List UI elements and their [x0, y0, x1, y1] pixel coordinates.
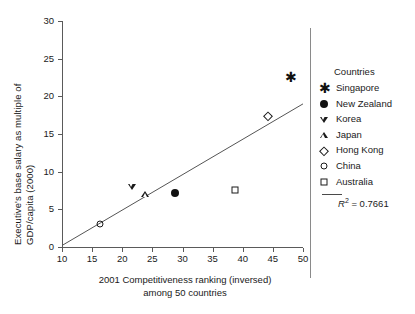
y-tick-label: 30	[32, 15, 54, 26]
r-squared-value: = 0.7661	[351, 198, 388, 209]
x-tick-mark	[62, 248, 63, 252]
x-tick-label: 10	[50, 253, 74, 264]
x-tick-mark	[273, 248, 274, 252]
legend-item-label: Singapore	[336, 82, 379, 93]
legend-trendline-swatch	[322, 194, 342, 195]
legend-item-label: Australia	[336, 176, 373, 187]
circle-open-marker-icon	[321, 163, 328, 170]
r-squared-exponent: 2	[345, 197, 349, 204]
legend-item-label: New Zealand	[336, 98, 392, 109]
plot-area: 051015202530 101520253035404550 ✱	[62, 21, 303, 248]
r-squared-symbol: R	[338, 198, 345, 209]
y-axis-title-line1: Executive's base salary as multiple of	[12, 84, 24, 245]
legend-item-label: China	[336, 160, 361, 171]
x-tick-label: 35	[201, 253, 225, 264]
y-tick-label: 25	[32, 53, 54, 64]
legend-item-label: Japan	[336, 129, 362, 140]
legend-item-australia[interactable]: Australia	[318, 175, 414, 191]
asterisk-marker-icon: ✱	[319, 84, 329, 94]
x-tick-mark	[243, 248, 244, 252]
circle-filled-marker-icon	[171, 189, 179, 197]
scatter-chart-figure: Executive's base salary as multiple of G…	[0, 0, 415, 314]
asterisk-marker-icon: ✱	[285, 73, 295, 83]
legend-items: ✱SingaporeNew ZealandKoreaJapanHong Kong…	[318, 81, 414, 190]
x-tick-mark	[303, 248, 304, 252]
square-open-marker-icon	[321, 179, 328, 186]
x-tick-mark	[92, 248, 93, 252]
square-open-marker-icon	[231, 186, 238, 193]
legend-item-china[interactable]: China	[318, 159, 414, 175]
legend-title: Countries	[334, 66, 414, 77]
legend-item-new-zealand[interactable]: New Zealand	[318, 97, 414, 113]
triangle-up-marker-icon	[320, 132, 328, 138]
y-tick-label: 0	[32, 241, 54, 252]
x-tick-mark	[183, 248, 184, 252]
x-tick-label: 40	[231, 253, 255, 264]
x-axis-title-line1: 2001 Competitiveness ranking (inversed)	[40, 274, 330, 287]
x-tick-label: 30	[171, 253, 195, 264]
x-tick-mark	[152, 248, 153, 252]
legend-separator-line	[310, 28, 311, 278]
x-tick-label: 50	[291, 253, 315, 264]
legend: Countries ✱SingaporeNew ZealandKoreaJapa…	[318, 66, 414, 209]
triangle-up-marker-icon	[141, 191, 149, 197]
x-tick-label: 20	[110, 253, 134, 264]
y-tick-label: 5	[32, 203, 54, 214]
diamond-open-marker-icon	[319, 146, 328, 155]
y-tick-label: 20	[32, 90, 54, 101]
legend-item-label: Korea	[336, 113, 361, 124]
x-tick-label: 25	[140, 253, 164, 264]
legend-item-hong-kong[interactable]: Hong Kong	[318, 143, 414, 159]
y-tick-label: 15	[32, 128, 54, 139]
triangle-down-marker-icon	[320, 117, 328, 123]
x-tick-label: 15	[80, 253, 104, 264]
x-axis-title: 2001 Competitiveness ranking (inversed) …	[40, 274, 330, 299]
x-axis-title-line2: among 50 countries	[40, 287, 330, 300]
x-tick-mark	[122, 248, 123, 252]
triangle-down-marker-icon	[128, 184, 136, 190]
circle-filled-marker-icon	[320, 100, 328, 108]
r-squared-annotation: R2 = 0.7661	[338, 197, 414, 209]
y-tick-label: 10	[32, 166, 54, 177]
legend-item-label: Hong Kong	[336, 144, 384, 155]
legend-item-korea[interactable]: Korea	[318, 112, 414, 128]
legend-item-japan[interactable]: Japan	[318, 128, 414, 144]
x-tick-mark	[213, 248, 214, 252]
x-tick-label: 45	[261, 253, 285, 264]
circle-open-marker-icon	[96, 221, 103, 228]
trend-line	[62, 21, 303, 248]
legend-item-singapore[interactable]: ✱Singapore	[318, 81, 414, 97]
